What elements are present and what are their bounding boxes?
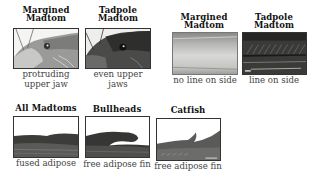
title-line: Madtom <box>166 21 242 29</box>
caption-line: jaws <box>78 80 158 90</box>
panel-caption: even upper jaws <box>78 70 158 89</box>
panel-title: Tadpole Madtom <box>236 13 312 29</box>
panel-title: All Madtoms <box>6 104 86 112</box>
tadpole-madtom-head-image <box>85 28 151 69</box>
panel-title: Tadpole Madtom <box>80 6 156 22</box>
panel-caption: fused adipose <box>6 159 86 169</box>
panel-caption: protruding upper jaw <box>6 70 86 89</box>
title-line: Madtom <box>8 14 84 22</box>
panel-caption: free adipose fin <box>77 160 157 170</box>
panel-title: Bullheads <box>77 105 157 113</box>
title-line: Madtom <box>236 21 312 29</box>
panel-title: Catfish <box>148 106 228 114</box>
panel-caption: line on side <box>234 76 314 86</box>
panel-caption: no line on side <box>165 76 245 86</box>
margined-madtom-side-image <box>172 32 238 75</box>
margined-madtom-head-image <box>13 28 79 69</box>
tadpole-madtom-side-image <box>242 32 307 75</box>
panel-caption: free adipose fin <box>148 162 228 172</box>
catfish-adipose-image <box>156 118 221 161</box>
title-line: Madtom <box>80 14 156 22</box>
panel-title: Margined Madtom <box>8 6 84 22</box>
bullhead-adipose-image <box>85 116 150 158</box>
caption-line: upper jaw <box>6 80 86 90</box>
panel-title: Margined Madtom <box>166 13 242 29</box>
madtom-adipose-image <box>13 116 79 158</box>
